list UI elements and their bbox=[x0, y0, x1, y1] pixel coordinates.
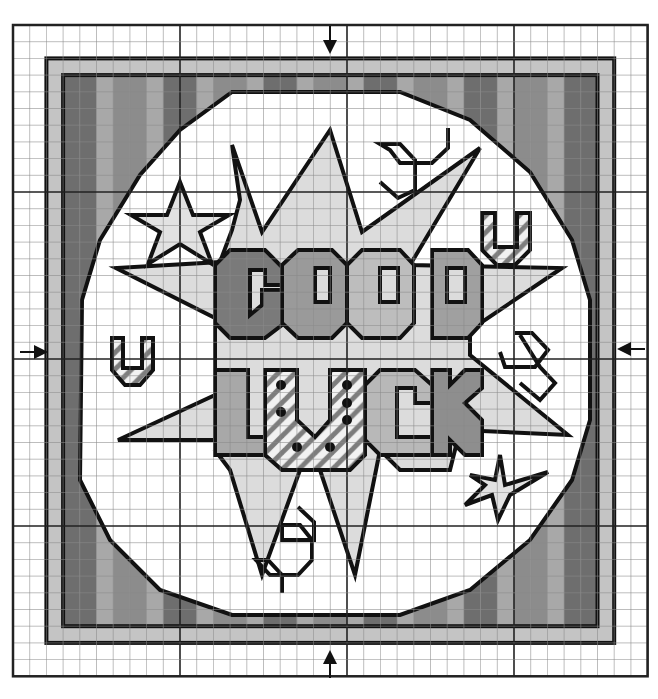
letter-o bbox=[282, 250, 347, 338]
top-center-arrow bbox=[323, 26, 337, 54]
bottom-center-arrow bbox=[323, 650, 337, 678]
left-center-arrow bbox=[20, 345, 48, 359]
cross-stitch-chart bbox=[0, 0, 658, 699]
right-center-arrow bbox=[617, 342, 645, 356]
